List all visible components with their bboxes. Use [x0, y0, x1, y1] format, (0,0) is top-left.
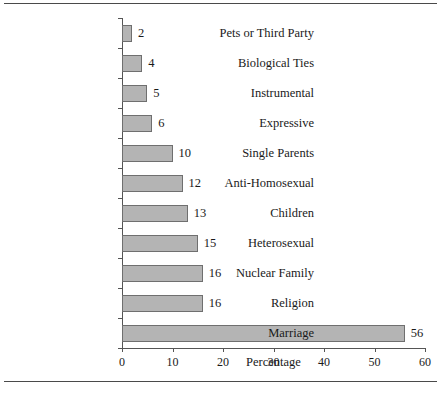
y-tick — [118, 138, 122, 139]
bar — [122, 115, 152, 132]
y-tick — [118, 198, 122, 199]
category-label: Anti-Homosexual — [224, 175, 314, 192]
bar — [122, 55, 142, 72]
x-tick — [274, 348, 275, 352]
x-tick — [122, 348, 123, 352]
bar-value-label: 15 — [204, 235, 217, 252]
bar — [122, 235, 198, 252]
category-label: Heterosexual — [248, 235, 314, 252]
x-tick — [223, 348, 224, 352]
y-tick — [118, 318, 122, 319]
bar-value-label: 5 — [153, 85, 159, 102]
y-tick — [118, 288, 122, 289]
x-tick — [173, 348, 174, 352]
category-label: Pets or Third Party — [219, 25, 314, 42]
bar-value-label: 56 — [411, 325, 424, 342]
category-label: Expressive — [259, 115, 314, 132]
y-tick — [118, 18, 122, 19]
bar-value-label: 13 — [194, 205, 207, 222]
category-label: Biological Ties — [238, 55, 314, 72]
x-axis-title: Percentage — [122, 355, 425, 370]
category-label: Children — [270, 205, 314, 222]
category-label: Nuclear Family — [236, 265, 314, 282]
category-label: Single Parents — [242, 145, 314, 162]
bar-value-label: 10 — [179, 145, 192, 162]
bar — [122, 145, 173, 162]
bar-value-label: 2 — [138, 25, 144, 42]
bar-value-label: 6 — [158, 115, 164, 132]
bar — [122, 265, 203, 282]
bar — [122, 205, 188, 222]
y-tick — [118, 168, 122, 169]
bar — [122, 325, 405, 342]
y-tick — [118, 48, 122, 49]
x-tick — [425, 348, 426, 352]
y-tick — [118, 258, 122, 259]
bar — [122, 25, 132, 42]
bar — [122, 295, 203, 312]
bar — [122, 85, 147, 102]
category-label: Instrumental — [251, 85, 314, 102]
bar-chart-figure: 0102030405060 245610121315161656 Pets or… — [0, 0, 441, 394]
x-tick — [375, 348, 376, 352]
bottom-rule — [4, 381, 437, 382]
bar-value-label: 16 — [209, 295, 222, 312]
bar-value-label: 16 — [209, 265, 222, 282]
bar-value-label: 4 — [148, 55, 154, 72]
y-tick — [118, 228, 122, 229]
y-tick — [118, 78, 122, 79]
x-tick — [324, 348, 325, 352]
top-rule — [4, 3, 437, 4]
category-label: Religion — [271, 295, 314, 312]
y-tick — [118, 108, 122, 109]
category-label: Marriage — [268, 325, 314, 342]
bar-value-label: 12 — [189, 175, 202, 192]
bar — [122, 175, 183, 192]
